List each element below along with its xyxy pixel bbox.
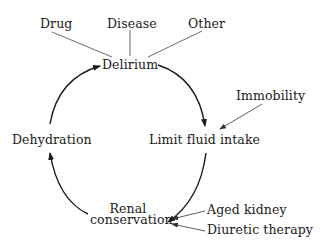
diuretic-therapy-arrow [172, 224, 205, 231]
arrow-limit-fluid-intake-to-renal-conservation [168, 153, 206, 222]
node-dehydration: Dehydration [12, 134, 92, 147]
cause-other-label: Other [188, 18, 225, 31]
drug-to-delirium-line [52, 32, 112, 57]
factor-aged-kidney-label: Aged kidney [207, 204, 287, 217]
arrow-delirium-to-limit-fluid-intake [158, 65, 205, 126]
factor-immobility-label: Immobility [236, 90, 305, 103]
cause-drug-label: Drug [40, 18, 72, 31]
immobility-arrow [220, 104, 262, 129]
node-limit-fluid-intake: Limit fluid intake [149, 134, 260, 147]
renal-conservation-line2: conservation [90, 214, 166, 225]
other-to-delirium-line [148, 31, 202, 57]
node-delirium: Delirium [102, 59, 158, 72]
factor-diuretic-therapy-label: Diuretic therapy [207, 224, 313, 237]
node-renal-conservation: Renal conservation [90, 203, 166, 225]
arrow-dehydration-to-delirium [50, 66, 100, 124]
cause-disease-label: Disease [107, 18, 157, 31]
arrow-renal-conservation-to-dehydration [50, 153, 88, 214]
